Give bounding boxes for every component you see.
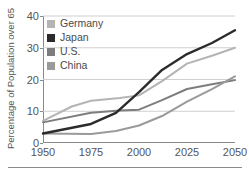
- legend-swatch-japan: [47, 34, 55, 42]
- chart-figure: Percentage of Population over 65 40 30 2…: [0, 0, 249, 174]
- legend-item-japan: Japan: [47, 31, 103, 44]
- legend-label-china: China: [60, 60, 87, 71]
- x-tick-label-2050: 2050: [223, 146, 247, 158]
- y-tick-label-40: 40: [27, 10, 39, 22]
- y-tick-label-30: 30: [27, 42, 39, 54]
- y-tickmark-0: [40, 143, 43, 144]
- legend-label-japan: Japan: [60, 32, 89, 43]
- y-axis-title: Percentage of Population over 65: [5, 7, 16, 148]
- legend-item-germany: Germany: [47, 17, 103, 30]
- bottom-divider: [8, 167, 242, 168]
- x-tick-label-2000: 2000: [127, 146, 151, 158]
- series-line-us: [43, 80, 235, 122]
- x-tick-label-1950: 1950: [31, 146, 55, 158]
- y-tick-label-10: 10: [27, 105, 39, 117]
- legend-swatch-us: [47, 48, 55, 56]
- legend-label-us: U.S.: [60, 46, 80, 57]
- legend-item-us: U.S.: [47, 45, 103, 58]
- legend-item-china: China: [47, 59, 103, 72]
- y-axis-title-container: Percentage of Population over 65: [0, 0, 20, 156]
- legend-swatch-china: [47, 62, 55, 70]
- x-tick-label-2025: 2025: [175, 146, 199, 158]
- y-tick-label-20: 20: [27, 74, 39, 86]
- chart-legend: Germany Japan U.S. China: [47, 17, 103, 72]
- legend-swatch-germany: [47, 20, 55, 28]
- legend-label-germany: Germany: [60, 18, 103, 29]
- x-tick-label-1975: 1975: [79, 146, 103, 158]
